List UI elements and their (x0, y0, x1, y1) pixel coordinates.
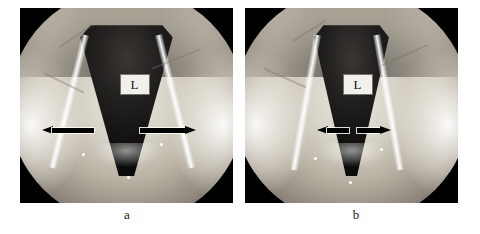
endoscopic-field-a (20, 8, 233, 203)
lumen-label-b: L (344, 75, 372, 94)
panel-a-image: L (20, 8, 233, 203)
right-pointing-arrow-b (357, 126, 391, 135)
lumen-label-a: L (121, 75, 149, 94)
specular-highlight (127, 176, 130, 179)
caption-a: a (107, 207, 147, 223)
left-pointing-arrow-a (42, 126, 94, 135)
specular-highlight (160, 143, 163, 146)
arrowhead-right-icon (185, 126, 196, 134)
caption-b: b (336, 207, 376, 223)
panel-b-image: L (245, 8, 458, 203)
arrowhead-right-icon (380, 126, 391, 134)
right-pointing-arrow-a (140, 126, 196, 135)
arrow-shaft (52, 128, 94, 133)
arrow-shaft (357, 128, 381, 133)
arrow-shaft (140, 128, 186, 133)
anterior-commissure-a (86, 143, 166, 181)
figure-container: L L (0, 0, 480, 234)
endoscopic-field-b (245, 8, 458, 203)
arrow-shaft (327, 128, 349, 133)
left-pointing-arrow-b (317, 126, 349, 135)
specular-highlight (349, 181, 352, 184)
